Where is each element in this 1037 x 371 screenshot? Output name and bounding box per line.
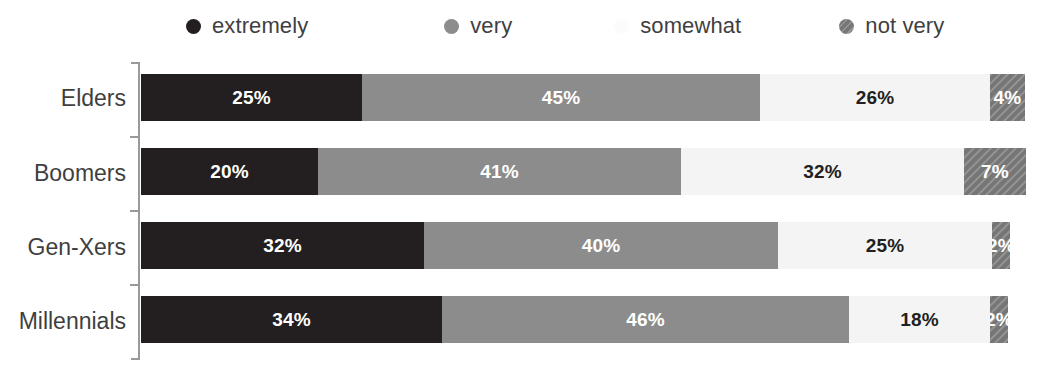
- chart-legend: extremely very somewhat not very: [186, 11, 906, 41]
- category-label-boomers: Boomers: [34, 162, 126, 185]
- bar-value-boomers-somewhat: 32%: [803, 162, 842, 181]
- legend-label-not-very: not very: [865, 15, 944, 37]
- legend-item-somewhat: somewhat: [614, 15, 741, 37]
- bar-value-gen-xers-not-very: 2%: [992, 236, 1010, 255]
- bar-segment-gen-xers-not-very[interactable]: 2%: [992, 222, 1010, 269]
- bar-value-gen-xers-extremely: 32%: [263, 236, 302, 255]
- legend-dot-extremely-icon: [186, 19, 201, 34]
- bar-segment-gen-xers-somewhat[interactable]: 25%: [778, 222, 992, 269]
- legend-item-extremely: extremely: [186, 15, 308, 37]
- bar-segment-elders-not-very[interactable]: 4%: [990, 74, 1025, 121]
- category-axis-cap-top: [131, 62, 140, 64]
- plot-area: Elders Boomers Gen-Xers Millennials 25% …: [0, 52, 1037, 371]
- bar-segment-elders-somewhat[interactable]: 26%: [760, 74, 990, 121]
- bar-value-elders-somewhat: 26%: [856, 88, 895, 107]
- legend-label-somewhat: somewhat: [640, 15, 741, 37]
- bar-value-elders-not-very: 4%: [994, 88, 1022, 107]
- bar-value-millennials-not-very: 2%: [990, 310, 1008, 329]
- bar-segment-millennials-very[interactable]: 46%: [442, 296, 849, 343]
- bar-segment-boomers-somewhat[interactable]: 32%: [681, 148, 964, 195]
- category-label-millennials: Millennials: [19, 310, 126, 333]
- category-axis-tick-1: [130, 136, 139, 138]
- bar-segment-elders-very[interactable]: 45%: [362, 74, 760, 121]
- legend-dot-somewhat-icon: [614, 19, 629, 34]
- stacked-bar-chart: extremely very somewhat not very Elders …: [0, 0, 1037, 371]
- table-row: 34% 46% 18% 2%: [141, 296, 1008, 343]
- table-row: 32% 40% 25% 2%: [141, 222, 1010, 269]
- table-row: 25% 45% 26% 4%: [141, 74, 1025, 121]
- bar-segment-boomers-not-very[interactable]: 7%: [964, 148, 1026, 195]
- bar-value-gen-xers-very: 40%: [582, 236, 621, 255]
- legend-label-extremely: extremely: [212, 15, 308, 37]
- bar-value-boomers-very: 41%: [480, 162, 519, 181]
- bar-segment-gen-xers-very[interactable]: 40%: [424, 222, 778, 269]
- legend-item-very: very: [444, 15, 512, 37]
- bar-segment-boomers-extremely[interactable]: 20%: [141, 148, 318, 195]
- legend-label-very: very: [470, 15, 512, 37]
- bar-segment-gen-xers-extremely[interactable]: 32%: [141, 222, 424, 269]
- bar-segment-elders-extremely[interactable]: 25%: [141, 74, 362, 121]
- bar-value-elders-extremely: 25%: [232, 88, 271, 107]
- bar-value-boomers-extremely: 20%: [210, 162, 249, 181]
- legend-item-not-very: not very: [839, 15, 944, 37]
- bar-segment-boomers-very[interactable]: 41%: [318, 148, 681, 195]
- category-label-elders: Elders: [61, 87, 126, 110]
- category-axis-cap-bottom: [131, 358, 140, 360]
- bar-segment-millennials-somewhat[interactable]: 18%: [849, 296, 990, 343]
- bar-value-millennials-somewhat: 18%: [900, 310, 939, 329]
- legend-dot-not-very-icon: [839, 19, 854, 34]
- bar-segment-millennials-extremely[interactable]: 34%: [141, 296, 442, 343]
- table-row: 20% 41% 32% 7%: [141, 148, 1026, 195]
- category-label-gen-xers: Gen-Xers: [28, 236, 126, 259]
- bar-value-millennials-extremely: 34%: [272, 310, 311, 329]
- bar-value-gen-xers-somewhat: 25%: [866, 236, 905, 255]
- bar-segment-millennials-not-very[interactable]: 2%: [990, 296, 1008, 343]
- category-axis-tick-3: [130, 284, 139, 286]
- legend-dot-very-icon: [444, 19, 459, 34]
- bar-value-elders-very: 45%: [542, 88, 581, 107]
- category-axis-tick-2: [130, 210, 139, 212]
- bar-value-millennials-very: 46%: [626, 310, 665, 329]
- bar-value-boomers-not-very: 7%: [981, 162, 1009, 181]
